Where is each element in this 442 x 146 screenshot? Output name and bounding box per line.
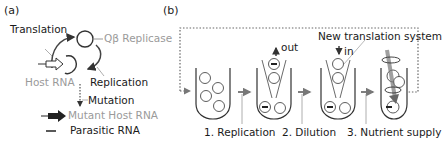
replicase-circle-icon	[77, 31, 93, 47]
binding-replicase-icon	[65, 56, 76, 74]
panel-a-label: (a)	[4, 5, 19, 16]
diagram-canvas	[0, 0, 442, 146]
parasitic-rna-label: Parasitic RNA	[70, 125, 140, 136]
tube-fresh	[321, 40, 365, 119]
replication-arrow-icon	[88, 45, 101, 69]
host-rna-arrow-icon	[38, 58, 63, 70]
mutant-host-rna-icon	[41, 110, 66, 122]
in-label: in	[344, 46, 354, 57]
new-translation-system-label: New translation system	[318, 31, 442, 42]
step-1-label: 1. Replication	[204, 127, 275, 138]
host-rna-label: Host RNA	[25, 77, 75, 88]
panel-b-label: (b)	[163, 5, 179, 16]
out-label: out	[281, 42, 298, 53]
mutation-label: Mutation	[88, 95, 134, 106]
step-3-label: 3. Nutrient supply	[347, 127, 441, 138]
replicase-label: Qβ Replicase	[104, 33, 172, 44]
tube-dilution	[257, 48, 291, 119]
mutant-host-rna-label: Mutant Host RNA	[68, 110, 158, 121]
tube-replication	[196, 68, 230, 119]
step-2-label: 2. Dilution	[282, 127, 336, 138]
replication-label: Replication	[90, 77, 148, 88]
tube-mixing	[381, 50, 407, 119]
translation-label: Translation	[10, 24, 67, 35]
